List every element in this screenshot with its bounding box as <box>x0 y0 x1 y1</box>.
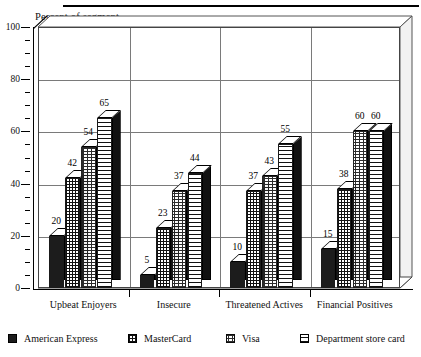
bar-1-1[interactable]: 23 <box>156 228 171 288</box>
bar-front-face <box>278 144 293 288</box>
bar-front-face <box>369 131 384 288</box>
bar-front-face <box>230 262 245 288</box>
bar-value-label: 37 <box>249 171 259 181</box>
bar-front-face <box>49 236 64 288</box>
bar-value-label: 38 <box>339 169 349 179</box>
bar-value-label: 43 <box>265 156 275 166</box>
bar-value-label: 37 <box>174 171 184 181</box>
bar-1-0[interactable]: 5 <box>140 275 155 288</box>
bar-side-face <box>112 110 121 280</box>
bar-value-label: 60 <box>371 111 381 121</box>
bar-2-3[interactable]: 55 <box>278 144 293 288</box>
bar-front-face <box>97 118 112 288</box>
bar-front-face <box>156 228 171 288</box>
bar-2-2[interactable]: 43 <box>262 176 277 288</box>
bar-front-face <box>188 173 203 288</box>
bar-3-0[interactable]: 15 <box>321 249 336 288</box>
bar-value-label: 10 <box>233 242 243 252</box>
bar-2-1[interactable]: 37 <box>246 191 261 288</box>
bar-value-label: 5 <box>144 255 149 265</box>
bar-0-0[interactable]: 20 <box>49 236 64 288</box>
bar-front-face <box>262 176 277 288</box>
bar-value-label: 42 <box>68 158 78 168</box>
bar-value-label: 55 <box>281 124 291 134</box>
bar-value-label: 23 <box>158 208 168 218</box>
bar-side-face <box>383 123 392 280</box>
bar-0-3[interactable]: 65 <box>97 118 112 288</box>
bar-1-3[interactable]: 44 <box>188 173 203 288</box>
bar-1-2[interactable]: 37 <box>172 191 187 288</box>
bar-value-label: 65 <box>100 98 110 108</box>
bar-front-face <box>81 147 96 288</box>
bar-front-face <box>353 131 368 288</box>
bar-chart: Percent of segment 020406080100 20425465… <box>0 0 421 357</box>
bar-side-face <box>202 165 211 280</box>
bar-0-1[interactable]: 42 <box>65 178 80 288</box>
bar-2-0[interactable]: 10 <box>230 262 245 288</box>
bar-front-face <box>337 189 352 288</box>
bar-front-face <box>172 191 187 288</box>
bar-3-1[interactable]: 38 <box>337 189 352 288</box>
bar-value-label: 60 <box>355 111 365 121</box>
bar-front-face <box>246 191 261 288</box>
bar-front-face <box>140 275 155 288</box>
bar-3-3[interactable]: 60 <box>369 131 384 288</box>
bar-value-label: 54 <box>84 127 94 137</box>
bar-side-face <box>293 136 302 280</box>
bars-layer: 2042546552337441037435515386060 <box>0 0 421 357</box>
bar-front-face <box>65 178 80 288</box>
bar-0-2[interactable]: 54 <box>81 147 96 288</box>
bar-value-label: 15 <box>323 229 333 239</box>
bar-value-label: 20 <box>52 216 62 226</box>
bar-value-label: 44 <box>190 153 200 163</box>
bar-front-face <box>321 249 336 288</box>
bar-3-2[interactable]: 60 <box>353 131 368 288</box>
